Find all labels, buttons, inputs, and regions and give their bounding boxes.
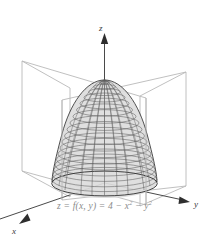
x-axis-label: x: [11, 226, 16, 236]
caption-exp-y: 2: [149, 199, 152, 206]
caption-minus-x: − x: [116, 201, 130, 211]
paraboloid-surface: [52, 80, 158, 198]
caption-minus-y: − y: [132, 201, 148, 211]
figure-caption: z = f(x, y) = 4 − x2 − y2: [0, 199, 209, 211]
x-axis-arrowhead: [19, 214, 31, 225]
paraboloid-figure: z x y z = f(x, y) = 4 − x2 − y2: [0, 0, 209, 240]
z-axis-label: z: [98, 23, 103, 33]
caption-lhs: z = f(x, y) = 4: [57, 201, 116, 211]
z-axis-arrowhead: [101, 33, 108, 44]
